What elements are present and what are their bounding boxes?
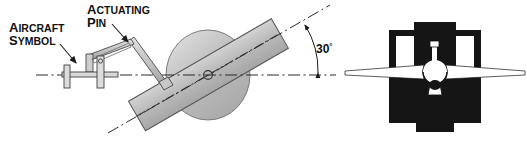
- aircraft-symbol-label-line2: SYMBOL: [9, 33, 56, 48]
- aircraft-symbol-left-tab: [64, 65, 70, 88]
- diagram-canvas: 30° AIRCRAFT SYMBOL ACTUATING PIN: [0, 0, 527, 155]
- left-side-view: 30° AIRCRAFT SYMBOL ACTUATING PIN: [9, 2, 336, 133]
- actuating-pin-label-line2: PIN: [87, 15, 106, 30]
- technical-diagram: 30° AIRCRAFT SYMBOL ACTUATING PIN: [0, 0, 527, 155]
- angle-dimension: 30°: [305, 25, 333, 73]
- pointer-cap: [430, 41, 439, 47]
- attitude-indicator-front-view: [345, 22, 525, 132]
- actuating-pin-leader: [112, 24, 128, 42]
- instrument-cutout-left: [396, 36, 414, 70]
- pin-upper-link: [88, 39, 134, 60]
- actuating-pin-label-line1: ACTUATING: [87, 2, 150, 17]
- pin-left-post: [86, 54, 93, 72]
- instrument-bottom-block: [416, 120, 454, 132]
- lower-index-dot: [429, 80, 441, 90]
- aircraft-symbol-leader: [60, 44, 76, 63]
- angle-label: 30°: [316, 42, 333, 56]
- instrument-cutout-right: [456, 36, 474, 70]
- instrument-top-block: [414, 22, 456, 36]
